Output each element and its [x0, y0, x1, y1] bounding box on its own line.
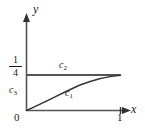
- fraction-numerator: 1: [9, 55, 22, 66]
- y-axis: [23, 13, 30, 111]
- curve-label-c3-subscript: 3: [13, 89, 17, 97]
- curve-c1-path: [27, 75, 121, 110]
- x-axis-label: x: [131, 103, 136, 115]
- curve-label-c1: c1: [65, 88, 73, 98]
- curve-label-c1-subscript: 1: [69, 92, 73, 100]
- x-axis-arrowhead: [122, 107, 131, 114]
- fraction-denominator: 4: [9, 67, 22, 78]
- origin-label: 0: [14, 112, 20, 123]
- curve-label-c2: c2: [59, 60, 67, 70]
- x-tick-label-one: 1: [117, 112, 123, 123]
- curve-label-c2-subscript: 2: [63, 64, 67, 72]
- y-axis-arrowhead: [23, 13, 30, 22]
- x-axis: [27, 107, 132, 114]
- y-tick-label-one-quarter: 1 4: [9, 55, 22, 78]
- y-axis-label: y: [33, 3, 38, 15]
- curve-label-c3: c3: [9, 85, 17, 95]
- math-figure: y x 1 4 c2 c1 c3 0 1: [0, 0, 145, 133]
